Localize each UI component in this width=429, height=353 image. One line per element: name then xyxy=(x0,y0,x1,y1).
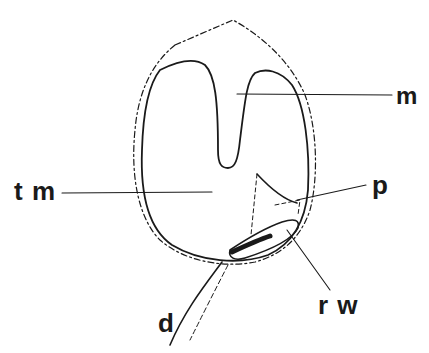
label-m: m xyxy=(396,84,418,108)
leader-tm xyxy=(62,192,212,193)
rw-shading xyxy=(232,236,270,252)
p-flap xyxy=(257,174,297,203)
duct-right-line xyxy=(190,265,228,340)
leader-m xyxy=(237,94,392,95)
inner-capsule-outline xyxy=(142,61,309,261)
outer-capsule-outline xyxy=(134,20,316,264)
label-p: p xyxy=(372,172,389,198)
diagram-canvas xyxy=(0,0,429,353)
duct-left-line xyxy=(170,262,222,345)
leader-rw xyxy=(287,230,330,290)
label-d: d xyxy=(158,310,175,336)
label-rw: r w xyxy=(318,292,359,318)
label-tm: t m xyxy=(14,178,56,204)
p-flap-dashed xyxy=(251,174,300,235)
